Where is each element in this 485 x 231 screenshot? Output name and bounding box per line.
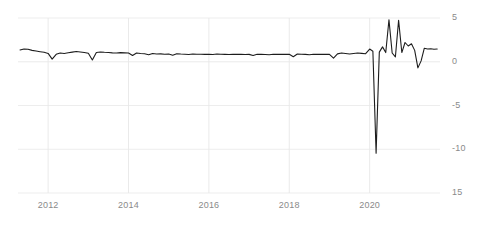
chart-plot-area	[0, 0, 485, 231]
x-axis-tick-label: 2016	[189, 200, 229, 210]
x-axis-tick-label: 2014	[109, 200, 149, 210]
x-axis-tick-label: 2020	[350, 200, 390, 210]
x-axis-tick-label: 2012	[28, 200, 68, 210]
horizontal-gridlines	[18, 18, 440, 193]
y-axis-tick-label: 5	[452, 12, 457, 22]
y-axis-tick-label: 0	[452, 56, 457, 66]
y-axis-tick-label: -10	[452, 143, 466, 153]
x-axis-tick-label: 2018	[269, 200, 309, 210]
y-axis-tick-label: 15	[452, 187, 462, 197]
line-chart: 50-5-1015 20122014201620182020	[0, 0, 485, 231]
data-series-line	[20, 20, 437, 153]
y-axis-tick-label: -5	[452, 100, 460, 110]
